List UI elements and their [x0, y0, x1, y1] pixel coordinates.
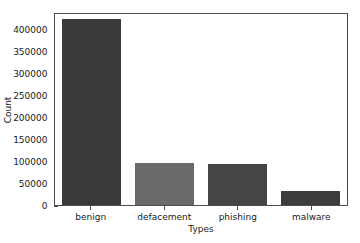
plot-area [54, 13, 348, 206]
x-tick-label-benign: benign [51, 211, 131, 223]
x-tick-label-defacement: defacement [124, 211, 204, 223]
bar-malware[interactable] [281, 191, 339, 205]
y-tick-label: 100000 [13, 156, 47, 169]
x-tick-mark [164, 206, 165, 210]
bar-chart-figure: Count 0500001000001500002000002500003000… [0, 0, 360, 243]
x-tick-mark [90, 206, 91, 210]
y-tick-label: 250000 [13, 90, 47, 103]
x-axis-label: Types [54, 224, 348, 234]
bar-benign[interactable] [62, 19, 120, 205]
x-tick-label-phishing: phishing [198, 211, 278, 223]
bar-defacement[interactable] [135, 163, 193, 205]
bar-phishing[interactable] [208, 164, 266, 205]
y-axis-label: Count [2, 13, 15, 206]
bar-slot [55, 14, 128, 205]
bar-slot [128, 14, 201, 205]
y-tick-label: 400000 [13, 24, 47, 37]
y-axis-label-text: Count [4, 96, 14, 123]
bar-series [55, 14, 347, 205]
x-tick-mark [237, 206, 238, 210]
y-tick-label: 0 [42, 200, 48, 213]
x-tick-mark [311, 206, 312, 210]
bar-slot [201, 14, 274, 205]
y-tick-label: 50000 [19, 178, 48, 191]
y-tick-label: 150000 [13, 134, 47, 147]
bar-slot [274, 14, 347, 205]
y-tick-label: 300000 [13, 68, 47, 81]
x-tick-label-malware: malware [271, 211, 351, 223]
y-tick-label: 200000 [13, 112, 47, 125]
y-tick-label: 350000 [13, 46, 47, 59]
